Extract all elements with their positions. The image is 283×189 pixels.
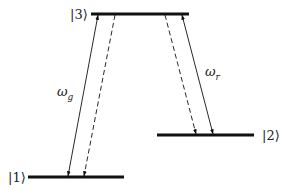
transitions (68, 15, 213, 176)
level-1-label: |1⟩ (8, 170, 26, 185)
omega-r-label: ωr (205, 64, 221, 82)
decay-32-arrow (165, 15, 196, 134)
omega-g-label: ωg (57, 84, 74, 102)
labels: |3⟩|2⟩|1⟩ωgωr (8, 7, 280, 185)
level-2-label: |2⟩ (262, 128, 280, 143)
decay-31-arrow (84, 15, 115, 176)
energy-level-diagram: |3⟩|2⟩|1⟩ωgωr (0, 0, 283, 189)
level-3-label: |3⟩ (70, 7, 88, 22)
